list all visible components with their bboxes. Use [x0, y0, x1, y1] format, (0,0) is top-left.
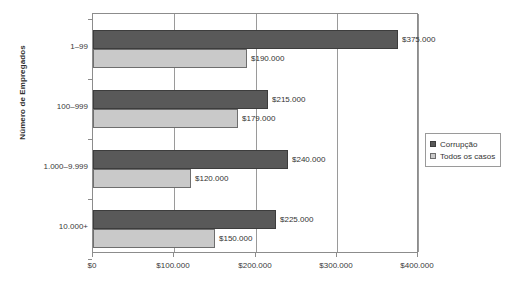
- chart-legend: CorrupçãoTodos os casos: [425, 133, 501, 167]
- x-axis-tick-mark: [417, 253, 418, 257]
- y-axis-tick-label: 1–99: [4, 42, 88, 51]
- bar-group: $225.000$150.000: [93, 210, 417, 248]
- x-axis-tick-label: $100.000: [156, 261, 189, 270]
- bar-group: $215.000$179.000: [93, 90, 417, 128]
- y-axis-tick-label: 100–999: [4, 102, 88, 111]
- x-axis-tick-mark: [92, 253, 93, 257]
- bar: [93, 210, 276, 229]
- legend-item: Corrupção: [430, 138, 495, 150]
- x-axis-tick-label: $300.000: [319, 261, 352, 270]
- y-axis-tick-labels: 1–99100–9991.000–9.99910.000+: [0, 13, 88, 253]
- bar: [93, 49, 247, 68]
- gridline: [418, 14, 419, 252]
- legend-swatch-icon: [430, 153, 436, 159]
- bar-value-label: $240.000: [292, 150, 325, 169]
- bar: [93, 109, 238, 128]
- bar: [93, 30, 398, 49]
- bar: [93, 90, 268, 109]
- x-axis-tick-mark: [173, 253, 174, 257]
- bar-value-label: $120.000: [195, 169, 228, 188]
- plot-area: $375.000$190.000$215.000$179.000$240.000…: [92, 13, 418, 253]
- x-axis-tick-label: $400.000: [400, 261, 433, 270]
- x-axis-tick-label: $0: [88, 261, 97, 270]
- bar-value-label: $225.000: [280, 210, 313, 229]
- bar-value-label: $190.000: [251, 49, 284, 68]
- bar: [93, 229, 215, 248]
- legend-item-label: Todos os casos: [440, 152, 495, 161]
- x-axis-tick-mark: [336, 253, 337, 257]
- bar: [93, 150, 288, 169]
- bar-value-label: $215.000: [272, 90, 305, 109]
- y-axis-tick-label: 1.000–9.999: [4, 162, 88, 171]
- legend-item: Todos os casos: [430, 150, 495, 162]
- bar-value-label: $150.000: [219, 229, 252, 248]
- bar-value-label: $375.000: [402, 30, 435, 49]
- bar: [93, 169, 191, 188]
- bar-chart: Número de Empregados 1–99100–9991.000–9.…: [0, 0, 526, 289]
- bar-value-label: $179.000: [242, 109, 275, 128]
- y-axis-tick-mark: [88, 259, 92, 260]
- x-axis-tick-mark: [255, 253, 256, 257]
- bar-group: $375.000$190.000: [93, 30, 417, 68]
- legend-item-label: Corrupção: [440, 140, 477, 149]
- legend-swatch-icon: [430, 141, 436, 147]
- x-axis-tick-label: $200.000: [238, 261, 271, 270]
- y-axis-tick-label: 10.000+: [4, 222, 88, 231]
- bar-group: $240.000$120.000: [93, 150, 417, 188]
